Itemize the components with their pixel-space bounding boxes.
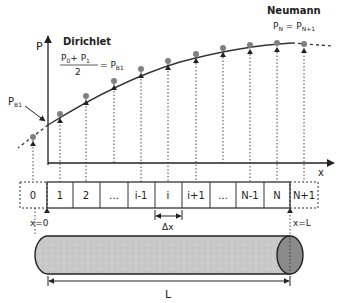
x-axis-label: x [318,167,324,178]
svg-text:= PB1: = PB1 [100,60,124,71]
cell-2: 2 [83,190,89,201]
neumann-title: Neumann [267,5,321,16]
svg-text:2: 2 [75,67,81,77]
cell-i-minus-1: i-1 [135,190,148,201]
cell-i-plus-1: i+1 [187,190,205,201]
cell-n: N [273,190,280,201]
neumann-condition: Neumann PN = PN+1 [267,5,321,32]
dirichlet-title: Dirichlet [63,36,111,47]
finite-volume-diagram: P x [0,0,343,303]
cell-n-minus-1: N-1 [241,190,258,201]
svg-text:Δx: Δx [162,222,174,232]
dx-dimension: Δx [155,210,182,232]
svg-text:P0+ P1: P0+ P1 [61,53,90,64]
cell-i: i [167,190,170,201]
cell-1: 1 [57,190,63,201]
length-dimension: L [48,276,290,301]
p-axis-label: P [36,40,43,53]
node-arrows [30,47,307,213]
cell-ellipsis-1: … [109,190,119,201]
grid-cells: 0 1 2 … i-1 i i+1 … N-1 N N+1 [20,182,318,208]
xL-label: x=L [293,218,311,228]
svg-text:PN = PN+1: PN = PN+1 [273,21,315,32]
dirichlet-condition: Dirichlet P0+ P1 2 = PB1 [60,36,124,77]
cell-0: 0 [30,190,36,201]
pb1-label: PB1 [8,96,45,121]
x0-label: x=0 [30,218,49,228]
svg-text:PB1: PB1 [8,96,22,108]
rod [35,236,303,274]
svg-text:L: L [165,288,172,301]
cell-ellipsis-2: … [218,190,228,201]
cell-n-plus-1: N+1 [293,190,315,201]
